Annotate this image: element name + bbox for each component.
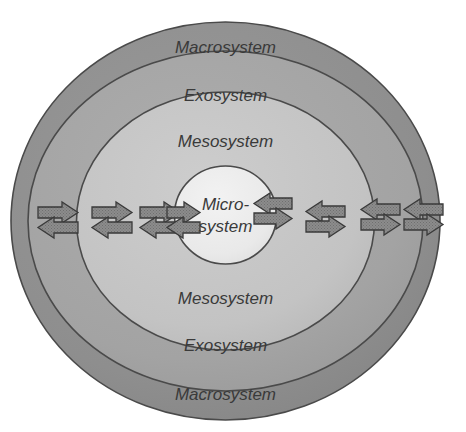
label-macrosystem-bottom: Macrosystem bbox=[175, 385, 276, 404]
label-macrosystem-top: Macrosystem bbox=[175, 38, 276, 57]
label-exosystem-top: Exosystem bbox=[184, 86, 267, 105]
label-mesosystem-bottom: Mesosystem bbox=[178, 289, 273, 308]
label-mesosystem-top: Mesosystem bbox=[178, 132, 273, 151]
diagram-canvas: Macrosystem Exosystem Mesosystem Micro- … bbox=[0, 0, 466, 432]
label-exosystem-bottom: Exosystem bbox=[184, 336, 267, 355]
label-microsystem-line2: system bbox=[199, 217, 253, 236]
label-microsystem-line1: Micro- bbox=[202, 195, 250, 214]
ecological-systems-diagram: Macrosystem Exosystem Mesosystem Micro- … bbox=[0, 0, 466, 432]
